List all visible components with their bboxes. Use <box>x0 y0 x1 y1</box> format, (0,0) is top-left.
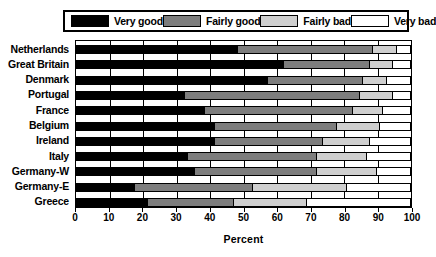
legend-swatch-fairly_good <box>163 15 201 27</box>
category-label-france: France <box>36 104 69 115</box>
legend-item-very_good[interactable]: Very good <box>71 15 163 27</box>
bar-row[interactable] <box>76 60 411 69</box>
bar-segment-very_bad[interactable] <box>397 46 410 53</box>
bar-segment-very_good[interactable] <box>77 123 214 130</box>
legend-item-fairly_bad[interactable]: Fairly bad <box>260 15 351 27</box>
bar-segment-fairly_good[interactable] <box>214 138 324 145</box>
x-tick-label-10: 10 <box>103 213 114 223</box>
bar-segment-very_good[interactable] <box>77 61 283 68</box>
x-tick-label-40: 40 <box>204 213 215 223</box>
bar-row[interactable] <box>76 91 411 100</box>
bar-row[interactable] <box>76 167 411 176</box>
bar-segment-fairly_good[interactable] <box>283 61 370 68</box>
category-label-great-britain: Great Britain <box>8 59 69 70</box>
category-label-belgium: Belgium <box>29 120 69 131</box>
bar-segment-fairly_good[interactable] <box>267 77 364 84</box>
bar-segment-very_good[interactable] <box>77 199 147 206</box>
legend-item-fairly_good[interactable]: Fairly good <box>163 15 260 27</box>
bar-segment-fairly_bad[interactable] <box>353 107 383 114</box>
legend-item-very_bad[interactable]: Very bad <box>351 15 436 27</box>
bar-segment-very_good[interactable] <box>77 184 134 191</box>
category-label-portugal: Portugal <box>28 89 69 100</box>
bar-segment-very_good[interactable] <box>77 153 187 160</box>
legend-swatch-fairly_bad <box>260 15 298 27</box>
bar-row[interactable] <box>76 198 411 207</box>
x-tick-label-100: 100 <box>404 213 421 223</box>
category-label-netherlands: Netherlands <box>11 43 69 54</box>
x-tick-label-90: 90 <box>373 213 384 223</box>
bar-segment-fairly_good[interactable] <box>134 184 254 191</box>
bar-segment-very_bad[interactable] <box>367 153 410 160</box>
bar-rows <box>76 41 411 207</box>
x-tick-label-30: 30 <box>171 213 182 223</box>
bar-segment-fairly_good[interactable] <box>237 46 374 53</box>
bar-segment-very_bad[interactable] <box>387 77 410 84</box>
bar-segment-very_bad[interactable] <box>393 61 410 68</box>
bar-segment-fairly_bad[interactable] <box>360 92 393 99</box>
bar-row[interactable] <box>76 152 411 161</box>
category-label-greece: Greece <box>35 196 69 207</box>
legend-label-fairly_bad: Fairly bad <box>303 16 351 27</box>
x-axis-tick-labels: 0102030405060708090100 <box>75 213 412 227</box>
bar-segment-fairly_good[interactable] <box>187 153 317 160</box>
bar-segment-fairly_bad[interactable] <box>370 61 393 68</box>
category-axis-labels: NetherlandsGreat BritainDenmarkPortugalF… <box>0 40 72 208</box>
x-tick-label-50: 50 <box>238 213 249 223</box>
x-tick-label-80: 80 <box>339 213 350 223</box>
bar-row[interactable] <box>76 137 411 146</box>
category-label-denmark: Denmark <box>25 74 69 85</box>
bar-segment-very_good[interactable] <box>77 92 184 99</box>
category-label-germany-e: Germany-E <box>15 181 69 192</box>
x-axis-title: Percent <box>75 233 412 245</box>
bar-segment-very_good[interactable] <box>77 77 267 84</box>
x-tick-label-70: 70 <box>305 213 316 223</box>
bar-segment-fairly_good[interactable] <box>184 92 360 99</box>
category-label-ireland: Ireland <box>36 135 69 146</box>
chart-legend: Very goodFairly goodFairly badVery bad <box>63 10 409 32</box>
x-tick-label-20: 20 <box>137 213 148 223</box>
category-label-italy: Italy <box>49 150 69 161</box>
bar-segment-fairly_good[interactable] <box>204 107 354 114</box>
bar-segment-fairly_bad[interactable] <box>317 168 377 175</box>
bar-segment-very_good[interactable] <box>77 168 194 175</box>
bar-segment-fairly_bad[interactable] <box>363 77 386 84</box>
bar-segment-very_good[interactable] <box>77 46 237 53</box>
legend-label-fairly_good: Fairly good <box>206 16 260 27</box>
bar-segment-fairly_good[interactable] <box>194 168 317 175</box>
bar-segment-very_bad[interactable] <box>380 123 410 130</box>
bar-segment-very_good[interactable] <box>77 107 204 114</box>
bar-row[interactable] <box>76 106 411 115</box>
bar-segment-very_good[interactable] <box>77 138 214 145</box>
bar-segment-very_bad[interactable] <box>377 168 410 175</box>
legend-label-very_good: Very good <box>114 16 163 27</box>
bar-row[interactable] <box>76 122 411 131</box>
bar-segment-fairly_bad[interactable] <box>323 138 370 145</box>
x-tick-label-60: 60 <box>272 213 283 223</box>
bar-segment-fairly_bad[interactable] <box>373 46 396 53</box>
plot-area <box>75 40 412 208</box>
bar-segment-very_bad[interactable] <box>370 138 410 145</box>
bar-segment-very_bad[interactable] <box>383 107 410 114</box>
bar-segment-very_bad[interactable] <box>393 92 410 99</box>
bar-segment-fairly_bad[interactable] <box>317 153 367 160</box>
legend-swatch-very_good <box>71 15 109 27</box>
legend-label-very_bad: Very bad <box>394 16 436 27</box>
bar-segment-very_bad[interactable] <box>307 199 410 206</box>
legend-swatch-very_bad <box>351 15 389 27</box>
bar-segment-very_bad[interactable] <box>347 184 410 191</box>
bar-segment-fairly_bad[interactable] <box>253 184 346 191</box>
bar-segment-fairly_bad[interactable] <box>234 199 307 206</box>
category-label-germany-w: Germany-W <box>12 166 69 177</box>
bar-row[interactable] <box>76 45 411 54</box>
bar-row[interactable] <box>76 183 411 192</box>
bar-segment-fairly_good[interactable] <box>214 123 337 130</box>
bar-segment-fairly_good[interactable] <box>147 199 234 206</box>
x-tick-label-0: 0 <box>72 213 78 223</box>
bar-row[interactable] <box>76 76 411 85</box>
plot-inner <box>76 41 411 207</box>
bar-segment-fairly_bad[interactable] <box>337 123 380 130</box>
